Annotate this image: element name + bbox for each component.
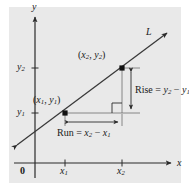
run-name: Run bbox=[57, 127, 74, 138]
point-marker-p1 bbox=[62, 110, 67, 115]
rise-name: Rise bbox=[135, 84, 153, 95]
y2-sub: 2 bbox=[21, 65, 24, 72]
p1-close: ) bbox=[57, 94, 60, 105]
run-minus: − bbox=[92, 127, 103, 138]
point-label-p2: (x2, y2) bbox=[78, 50, 105, 61]
run-term2-sub: 1 bbox=[107, 131, 110, 138]
y-tick-label-y2: y2 bbox=[17, 62, 25, 73]
slope-diagram-figure: y x 0 x1 x2 y2 y1 (x1, y1) (x2, y2) L Ri… bbox=[0, 0, 189, 192]
point-label-p1: (x1, y1) bbox=[33, 95, 60, 106]
y1-sub: 1 bbox=[21, 110, 24, 117]
p2-close: ) bbox=[102, 49, 105, 60]
rise-minus: − bbox=[171, 84, 182, 95]
run-annotation: Run = x2 − x1 bbox=[57, 128, 111, 139]
point-marker-p2 bbox=[119, 65, 124, 70]
rise-term2-sub: 1 bbox=[186, 88, 189, 95]
line-label-L: L bbox=[146, 27, 152, 37]
y-tick-label-y1: y1 bbox=[17, 107, 25, 118]
origin-label: 0 bbox=[20, 166, 25, 176]
rise-equals: = bbox=[153, 84, 164, 95]
x1-sub: 1 bbox=[64, 169, 67, 176]
y-axis-label: y bbox=[32, 2, 36, 12]
x2-sub: 2 bbox=[121, 169, 124, 176]
rise-annotation: Rise = y2 − y1 bbox=[135, 85, 189, 96]
run-measure-arrow bbox=[65, 114, 122, 126]
x-tick-label-x2: x2 bbox=[117, 166, 125, 177]
right-angle-icon bbox=[112, 103, 122, 113]
run-equals: = bbox=[74, 127, 85, 138]
x-tick-label-x1: x1 bbox=[60, 166, 68, 177]
x-axis-label: x bbox=[177, 158, 181, 168]
